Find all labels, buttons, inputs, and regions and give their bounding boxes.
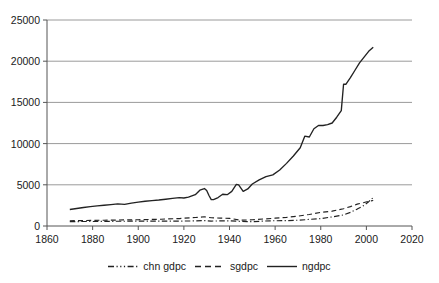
legend-swatch-dashed-icon [195,262,225,271]
legend-item-sgdpc: sgdpc [195,261,258,272]
y-tick-label: 15000 [11,96,40,108]
legend-label-chn-gdpc: chn gdpc [143,261,186,272]
y-tick-label: 25000 [11,14,40,26]
x-axis-tick-labels: 186018801900192019401960198020002020 [35,233,424,245]
x-axis-ticks [47,226,412,230]
y-tick-label: 10000 [11,138,40,150]
chart-plot-area: 186018801900192019401960198020002020 050… [0,0,439,250]
gridlines [47,20,412,185]
y-tick-label: 5000 [17,179,41,191]
y-axis-ticks [43,20,47,226]
x-tick-label: 1860 [35,233,59,245]
y-tick-label: 0 [34,220,40,232]
chart-screenshot: 186018801900192019401960198020002020 050… [0,0,439,283]
x-tick-label: 2020 [400,233,424,245]
x-tick-label: 1880 [81,233,105,245]
x-tick-label: 1960 [263,233,287,245]
legend-swatch-solid-icon [267,262,297,271]
data-series-group [70,47,373,222]
x-tick-label: 1920 [172,233,196,245]
line-chart: 186018801900192019401960198020002020 050… [0,0,439,250]
x-tick-label: 1980 [309,233,333,245]
y-tick-label: 20000 [11,55,40,67]
chart-legend: chn gdpc sgdpc ngdpc [0,250,439,283]
legend-label-ngdpc: ngdpc [302,261,331,272]
legend-item-ngdpc: ngdpc [267,261,331,272]
x-tick-label: 1940 [218,233,242,245]
legend-swatch-dash-dot-icon [108,262,138,271]
x-tick-label: 2000 [355,233,379,245]
legend-item-chn-gdpc: chn gdpc [108,261,186,272]
y-axis-tick-labels: 0500010000150002000025000 [11,14,40,232]
x-tick-label: 1900 [127,233,151,245]
legend-label-sgdpc: sgdpc [230,261,258,272]
